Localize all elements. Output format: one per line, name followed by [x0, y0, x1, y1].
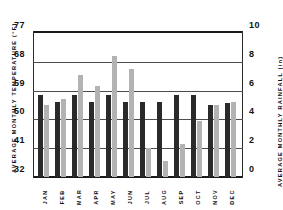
rainfall-bar: [44, 105, 49, 177]
month-label-text: OCT: [195, 184, 201, 210]
month-label: FEB: [55, 180, 68, 210]
temperature-bar: [140, 102, 145, 177]
month-label: JUN: [123, 180, 136, 210]
rainfall-bar: [146, 148, 151, 177]
temperature-bar: [225, 103, 230, 177]
month-label: OCT: [191, 180, 204, 210]
month-label-text: JUN: [127, 184, 133, 210]
bar-group: [72, 33, 85, 177]
right-axis-tick-label: 10: [249, 21, 260, 30]
right-axis-line: [242, 31, 243, 178]
month-label-text: JUL: [144, 184, 150, 210]
rainfall-bar: [214, 105, 219, 177]
rainfall-bar: [61, 99, 66, 177]
rainfall-bar: [163, 161, 168, 177]
right-axis-tick-label: 6: [249, 79, 255, 88]
month-label-text: SEP: [178, 184, 184, 210]
bar-group: [55, 33, 68, 177]
month-label-text: APR: [93, 184, 99, 210]
month-label-text: NOV: [212, 184, 218, 210]
month-label: MAR: [72, 180, 85, 210]
month-label-text: JAN: [42, 184, 48, 210]
month-label-text: FEB: [59, 184, 65, 210]
left-axis-title: AVERAGE MONTHLY TEMPERATURE (°F): [11, 23, 17, 174]
bar-group: [140, 33, 153, 177]
right-axis-tick-label: 0: [249, 165, 255, 174]
rainfall-bar: [112, 56, 117, 177]
rainfall-bar: [95, 86, 100, 177]
month-label-text: MAR: [76, 184, 82, 210]
x-axis-category-labels: JANFEBMARAPRMAYJUNJULAUGSEPOCTNOVDEC: [36, 180, 240, 210]
temperature-bar: [38, 95, 43, 177]
right-axis-tick-label: 4: [249, 107, 255, 116]
right-axis-tick-label: 2: [249, 136, 255, 145]
temperature-bar: [157, 102, 162, 177]
left-axis-line: [33, 31, 34, 178]
temperature-bar: [55, 102, 60, 177]
month-label: JUL: [140, 180, 153, 210]
bar-group: [89, 33, 102, 177]
bar-series-group: [36, 33, 240, 177]
bar-group: [157, 33, 170, 177]
bar-group: [38, 33, 51, 177]
bar-group: [208, 33, 221, 177]
bar-group: [106, 33, 119, 177]
month-label-text: MAY: [110, 184, 116, 210]
month-label: APR: [89, 180, 102, 210]
temperature-bar: [106, 95, 111, 177]
month-label: MAY: [106, 180, 119, 210]
month-label-text: DEC: [229, 184, 235, 210]
rainfall-bar: [129, 69, 134, 177]
temperature-bar: [208, 105, 213, 177]
right-axis-tick-label: 8: [249, 50, 255, 59]
temperature-bar: [72, 95, 77, 177]
month-label: DEC: [225, 180, 238, 210]
temperature-bar: [123, 102, 128, 177]
rainfall-bar: [231, 102, 236, 177]
month-label-text: AUG: [161, 184, 167, 210]
month-label: NOV: [208, 180, 221, 210]
rainfall-bar: [180, 144, 185, 177]
bar-group: [225, 33, 238, 177]
month-label: AUG: [157, 180, 170, 210]
right-axis-title: AVERAGE MONTHLY RAINFALL (in): [277, 56, 283, 187]
month-label: SEP: [174, 180, 187, 210]
bar-group: [174, 33, 187, 177]
temperature-bar: [191, 95, 196, 177]
bar-group: [123, 33, 136, 177]
temperature-bar: [89, 102, 94, 177]
rainfall-bar: [197, 121, 202, 177]
month-label: JAN: [38, 180, 51, 210]
rainfall-bar: [78, 75, 83, 177]
bar-group: [191, 33, 204, 177]
chart-container: 324150596877 0246810 JANFEBMARAPRMAYJUNJ…: [0, 0, 283, 210]
temperature-bar: [174, 95, 179, 177]
